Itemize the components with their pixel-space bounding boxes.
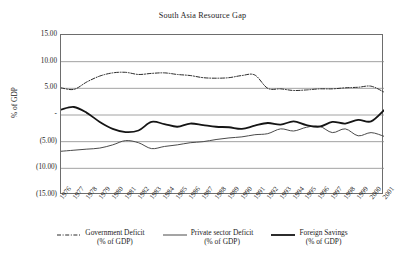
legend-item[interactable]: Private sector Deficit(% of GDP) bbox=[163, 228, 254, 246]
plot-svg bbox=[61, 35, 384, 195]
x-axis-tick-labels: 1976197719781979198019811982198319841985… bbox=[0, 196, 405, 226]
y-tick-label: - bbox=[10, 110, 57, 118]
y-tick-label: 10.00 bbox=[10, 57, 57, 65]
legend-series-units: (% of GDP) bbox=[85, 237, 144, 246]
legend-item[interactable]: Government Deficit(% of GDP) bbox=[57, 228, 144, 246]
y-tick-label: (10.00) bbox=[10, 163, 57, 171]
legend-item[interactable]: Foreign Savings(% of GDP) bbox=[271, 228, 347, 246]
series-line bbox=[61, 126, 384, 151]
legend-label: Private sector Deficit(% of GDP) bbox=[191, 228, 254, 246]
chart-page: South Asia Resource Gap % of GDP 15.0010… bbox=[0, 0, 405, 259]
legend-swatch-icon bbox=[163, 228, 187, 240]
legend-swatch-icon bbox=[57, 228, 81, 240]
plot-area bbox=[60, 34, 383, 194]
series-line bbox=[61, 72, 384, 92]
legend-series-units: (% of GDP) bbox=[299, 237, 347, 246]
y-tick-label: 15.00 bbox=[10, 30, 57, 38]
legend-label: Foreign Savings(% of GDP) bbox=[299, 228, 347, 246]
chart-legend: Government Deficit(% of GDP)Private sect… bbox=[0, 228, 405, 256]
y-tick-label: 5.00 bbox=[10, 83, 57, 91]
series-line bbox=[61, 107, 384, 132]
legend-swatch-icon bbox=[271, 228, 295, 240]
legend-series-name: Foreign Savings bbox=[299, 228, 347, 237]
legend-series-name: Government Deficit bbox=[85, 228, 144, 237]
y-axis-tick-labels: 15.0010.005.00-(5.00)(10.00)(15.00) bbox=[10, 28, 57, 203]
legend-series-name: Private sector Deficit bbox=[191, 228, 254, 237]
legend-series-units: (% of GDP) bbox=[191, 237, 254, 246]
legend-label: Government Deficit(% of GDP) bbox=[85, 228, 144, 246]
y-tick-label: (5.00) bbox=[10, 137, 57, 145]
page-title: South Asia Resource Gap bbox=[0, 11, 405, 20]
